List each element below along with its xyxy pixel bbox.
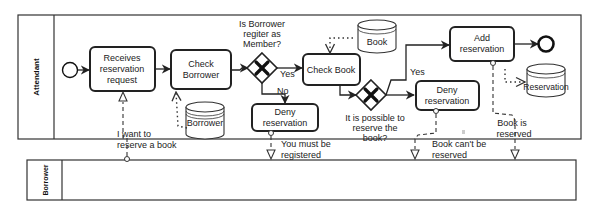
message1-line2: reserve a book bbox=[117, 140, 177, 150]
end-event[interactable] bbox=[539, 37, 554, 52]
svg-text:Reservation: Reservation bbox=[523, 82, 569, 92]
task-receives-reservation-request[interactable]: Receives reservation request bbox=[90, 47, 155, 91]
svg-text:reservation: reservation bbox=[100, 64, 145, 74]
gateway1-no-label: No bbox=[277, 86, 289, 96]
svg-text:Add: Add bbox=[474, 33, 490, 43]
message4-line1: Book is bbox=[497, 118, 527, 128]
message2-line1: You must be bbox=[281, 139, 331, 149]
borrower-lane bbox=[27, 160, 576, 200]
datastore-borrower[interactable]: Borrower bbox=[186, 102, 224, 139]
svg-text:Borrower: Borrower bbox=[183, 70, 220, 80]
svg-text:Check: Check bbox=[188, 59, 214, 69]
message4-line2: reserved bbox=[496, 129, 531, 139]
gateway2-yes-label: Yes bbox=[410, 67, 425, 77]
task-check-book[interactable]: Check Book bbox=[303, 54, 360, 85]
datastore-book[interactable]: Book bbox=[358, 20, 396, 53]
message3-line1: Book can't be bbox=[432, 139, 486, 149]
message2-line2: registered bbox=[281, 150, 321, 160]
svg-text:reservation: reservation bbox=[460, 44, 505, 54]
gateway2-question-line2: reserve the bbox=[352, 123, 397, 133]
svg-text:reservation: reservation bbox=[263, 118, 308, 128]
message1-line1: I want to bbox=[117, 129, 151, 139]
svg-text:Book: Book bbox=[367, 37, 388, 47]
gateway1-yes-label: Yes bbox=[280, 69, 295, 79]
borrower-lane-label: Borrower bbox=[42, 164, 49, 195]
svg-text:Borrower: Borrower bbox=[187, 118, 224, 128]
task-deny-reservation-2[interactable]: Deny reservation bbox=[416, 81, 479, 110]
gateway1-question-line2: regiter as bbox=[243, 29, 281, 39]
svg-text:Deny: Deny bbox=[274, 107, 296, 117]
task-add-reservation[interactable]: Add reservation bbox=[450, 27, 514, 61]
svg-text:request: request bbox=[107, 75, 138, 85]
gateway1-question-line1: Is Borrower bbox=[239, 19, 285, 29]
pool-borrower: Borrower bbox=[27, 160, 576, 200]
gateway2-question-line1: It is possible to bbox=[345, 113, 405, 123]
task-check-borrower[interactable]: Check Borrower bbox=[171, 50, 231, 89]
start-event[interactable] bbox=[63, 63, 78, 78]
svg-text:Receives: Receives bbox=[103, 53, 141, 63]
gateway1-question-line3: Member? bbox=[243, 39, 281, 49]
svg-text:Check Book: Check Book bbox=[307, 65, 356, 75]
datastore-reservation[interactable]: Reservation bbox=[523, 64, 569, 97]
stray-mark bbox=[462, 130, 465, 134]
task-deny-reservation-1[interactable]: Deny reservation bbox=[252, 104, 318, 131]
attendant-lane-label: Attendant bbox=[32, 58, 41, 96]
bpmn-diagram: Attendant Borrower Receives reservation … bbox=[0, 0, 589, 212]
gateway2-question-line3: book? bbox=[363, 133, 388, 143]
svg-text:reservation: reservation bbox=[425, 96, 470, 106]
message3-line2: reserved bbox=[432, 150, 467, 160]
svg-text:Deny: Deny bbox=[436, 85, 458, 95]
